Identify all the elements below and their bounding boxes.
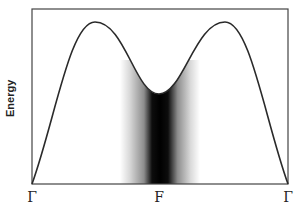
shaded-region	[120, 60, 200, 184]
band-structure-diagram	[0, 0, 298, 215]
x-tick-gamma-left: Γ	[27, 189, 37, 205]
x-tick-f: F	[154, 189, 164, 205]
x-tick-gamma-right: Γ	[283, 189, 293, 205]
y-axis-label: Energy	[4, 80, 16, 117]
